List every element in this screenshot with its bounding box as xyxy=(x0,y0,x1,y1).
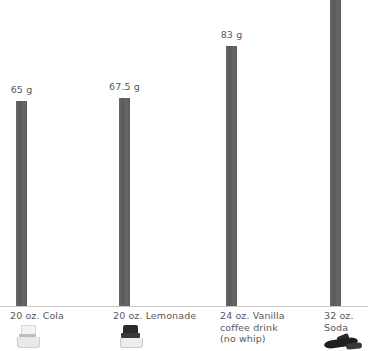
bar-cola[interactable] xyxy=(16,101,27,307)
category-label: 32 oz. Soda xyxy=(324,310,368,333)
bar-value-label: 83 g xyxy=(221,29,243,40)
bar-soda[interactable] xyxy=(330,0,341,307)
category-label: 20 oz. Lemonade xyxy=(113,310,196,322)
bar-vanilla-coffee[interactable] xyxy=(226,46,237,307)
category-label: 24 oz. Vanilla coffee drink (no whip) xyxy=(220,310,315,345)
x-axis-line xyxy=(0,306,368,307)
category-label: 20 oz. Cola xyxy=(10,310,64,322)
bar-value-label: 67.5 g xyxy=(109,81,140,92)
bar-lemonade[interactable] xyxy=(119,98,130,307)
category-cola: 20 oz. Cola xyxy=(10,310,64,347)
category-vanilla-coffee: 24 oz. Vanilla coffee drink (no whip) xyxy=(220,310,315,345)
category-soda: 32 oz. Soda xyxy=(324,310,368,351)
plot-area: 65 g 67.5 g 83 g xyxy=(0,0,368,307)
category-lemonade: 20 oz. Lemonade xyxy=(113,310,196,347)
soda-cup-icon xyxy=(324,335,364,351)
clear-bottle-icon xyxy=(15,325,41,347)
dark-cap-bottle-icon xyxy=(118,325,144,347)
bar-value-label: 65 g xyxy=(11,84,33,95)
